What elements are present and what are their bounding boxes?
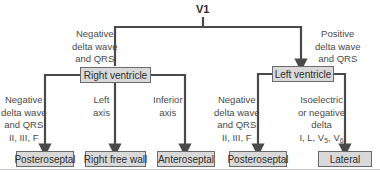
condition-line: delta wave	[315, 41, 360, 54]
node-right-ventricle: Right ventricle	[80, 67, 151, 83]
condition-line: II, III, F	[214, 132, 259, 145]
left-branch-condition: Negative delta wave and QRS	[72, 28, 117, 66]
condition-line: axis	[93, 107, 110, 120]
condition-line: or negative	[298, 107, 345, 120]
condition-line: and QRS	[214, 119, 259, 132]
rv-posteroseptal-condition: Negative delta wave and QRS II, III, F	[1, 94, 46, 144]
result-lv-posteroseptal: Posteroseptal	[229, 151, 287, 167]
root-node-v1: V1	[196, 3, 209, 15]
result-anteroseptal: Anteroseptal	[157, 151, 215, 167]
result-right-free-wall: Right free wall	[85, 151, 146, 167]
result-lateral: Lateral	[318, 151, 372, 167]
condition-line: and QRS	[315, 53, 360, 66]
condition-line: Negative	[1, 94, 46, 107]
right-branch-condition: Positive delta wave and QRS	[315, 28, 360, 66]
condition-line: and QRS	[1, 119, 46, 132]
condition-line: Left	[93, 94, 110, 107]
leads-line: I, L, V5, V6	[298, 132, 345, 148]
result-rv-posteroseptal: Posteroseptal	[16, 151, 74, 167]
rv-anteroseptal-condition: Inferior axis	[153, 94, 183, 119]
condition-line: Positive	[315, 28, 360, 41]
condition-line: Isoelectric	[298, 94, 345, 107]
condition-line: Negative	[214, 94, 259, 107]
condition-line: delta wave	[1, 107, 46, 120]
lv-posteroseptal-condition: Negative delta wave and QRS II, III, F	[214, 94, 259, 144]
baseline-divider	[0, 169, 380, 170]
condition-line: delta wave	[214, 107, 259, 120]
node-left-ventricle: Left ventricle	[272, 66, 334, 82]
accessory-pathway-localization-diagram: V1 Negative delta wave and QRS Positive …	[0, 0, 380, 172]
rv-free-wall-condition: Left axis	[93, 94, 110, 119]
lv-lateral-condition: Isoelectric or negative delta I, L, V5, …	[298, 94, 345, 147]
condition-line: delta wave	[72, 41, 117, 54]
condition-line: delta	[298, 119, 345, 132]
condition-line: Negative	[72, 28, 117, 41]
condition-line: II, III, F	[1, 132, 46, 145]
condition-line: axis	[153, 107, 183, 120]
condition-line: and QRS	[72, 53, 117, 66]
condition-line: Inferior	[153, 94, 183, 107]
